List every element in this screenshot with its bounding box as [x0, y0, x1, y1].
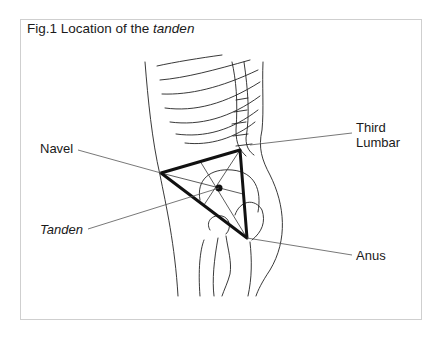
- label-navel: Navel: [40, 141, 73, 156]
- triangle-medians: [161, 150, 247, 238]
- label-third-lumbar-line2: Lumbar: [356, 135, 400, 150]
- label-anus: Anus: [356, 248, 386, 263]
- body-illustration: [0, 0, 443, 339]
- label-tanden: Tanden: [40, 222, 83, 237]
- leader-lines: [78, 133, 352, 255]
- label-third-lumbar-line1: Third: [356, 120, 400, 135]
- tanden-triangle: [161, 150, 247, 238]
- label-third-lumbar: Third Lumbar: [356, 120, 400, 150]
